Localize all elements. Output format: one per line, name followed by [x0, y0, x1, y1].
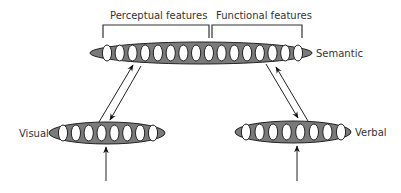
unit-node	[141, 45, 150, 61]
semantic-to-visual-arrow	[110, 66, 141, 120]
visual-label: Visual	[19, 128, 49, 139]
unit-node	[241, 124, 250, 140]
unit-node	[84, 125, 93, 141]
functional-bracket	[212, 25, 302, 38]
unit-node	[281, 45, 290, 61]
semantic-to-verbal-arrow	[266, 64, 298, 118]
functional-features-label: Functional features	[216, 10, 312, 21]
unit-node	[217, 45, 226, 61]
verbal-layer	[235, 121, 351, 143]
unit-node	[136, 125, 145, 141]
unit-node	[243, 45, 252, 61]
unit-node	[293, 45, 302, 61]
semantic-memory-diagram: Perceptual features Functional features …	[0, 0, 401, 193]
verbal-label: Verbal	[355, 127, 387, 138]
semantic-label: Semantic	[316, 48, 363, 59]
unit-node	[179, 45, 188, 61]
unit-node	[255, 45, 264, 61]
verbal-to-semantic-arrow	[276, 67, 308, 121]
unit-node	[58, 125, 67, 141]
unit-node	[110, 125, 119, 141]
unit-node	[269, 124, 278, 140]
unit-node	[115, 45, 124, 61]
unit-node	[230, 45, 239, 61]
visual-to-semantic-arrow	[99, 65, 133, 122]
unit-node	[123, 125, 132, 141]
visual-layer	[49, 122, 165, 144]
unit-node	[192, 45, 201, 61]
unit-node	[336, 124, 345, 140]
unit-node	[282, 124, 291, 140]
unit-node	[102, 45, 111, 61]
unit-node	[268, 45, 277, 61]
unit-node	[323, 124, 332, 140]
unit-node	[71, 125, 80, 141]
unit-node	[204, 45, 213, 61]
unit-node	[97, 125, 106, 141]
unit-node	[148, 125, 157, 141]
unit-node	[309, 124, 318, 140]
unit-node	[255, 124, 264, 140]
unit-node	[166, 45, 175, 61]
semantic-layer	[90, 42, 312, 64]
perceptual-bracket	[103, 25, 209, 38]
unit-node	[128, 45, 137, 61]
unit-node	[296, 124, 305, 140]
unit-node	[153, 45, 162, 61]
perceptual-features-label: Perceptual features	[110, 10, 207, 21]
